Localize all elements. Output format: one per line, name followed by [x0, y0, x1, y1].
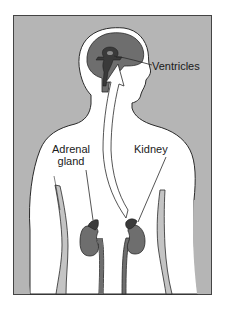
- right-side-shade: [193, 200, 211, 294]
- adrenal-label-line1: Adrenal: [48, 143, 94, 155]
- adrenal-gland-label: Adrenal gland: [48, 143, 94, 167]
- ventricles-label: Ventricles: [152, 60, 200, 72]
- anatomy-diagram: [0, 0, 227, 309]
- adrenal-label-line2: gland: [48, 155, 94, 167]
- ventricle-center: [107, 51, 113, 55]
- kidney-label: Kidney: [134, 143, 168, 155]
- left-kidney: [80, 226, 99, 256]
